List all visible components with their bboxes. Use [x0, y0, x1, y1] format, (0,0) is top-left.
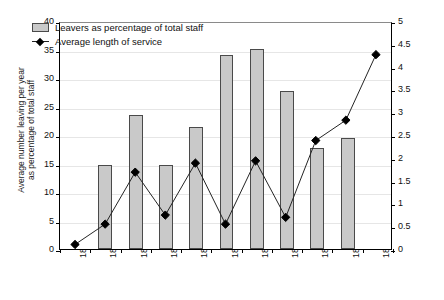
y-tick-right	[391, 46, 395, 47]
y-tick-right	[391, 228, 395, 229]
y-tick-label-right: 5	[398, 16, 428, 26]
line-marker-diamond	[282, 213, 290, 221]
plot-area	[59, 22, 392, 250]
x-tick	[60, 249, 61, 253]
y-tick-right	[391, 23, 395, 24]
y-tick-right	[391, 114, 395, 115]
legend-item-line: Average length of service	[32, 35, 203, 48]
line-marker-diamond	[372, 50, 380, 58]
y-tick-label: 5	[24, 216, 54, 226]
x-tick	[272, 249, 273, 253]
y-tick-label-right: 4.5	[398, 39, 428, 49]
line-marker-diamond	[191, 159, 199, 167]
y-tick-label-right: 2.5	[398, 130, 428, 140]
legend-item-bars: Leavers as percentage of total staff	[32, 21, 203, 34]
y-tick-label: 0	[24, 244, 54, 254]
x-tick	[181, 249, 182, 253]
x-tick	[211, 249, 212, 253]
y-tick-right	[391, 69, 395, 70]
line-diamond-icon	[32, 37, 49, 46]
line-marker-diamond	[131, 168, 139, 176]
x-tick	[332, 249, 333, 253]
line-marker-diamond	[161, 211, 169, 219]
line-marker-diamond	[101, 220, 109, 228]
y-tick-right	[391, 137, 395, 138]
y-tick-label-right: 2	[398, 153, 428, 163]
y-tick-label-right: 3.5	[398, 84, 428, 94]
line-path	[75, 55, 376, 245]
line-marker-diamond	[71, 240, 79, 248]
line-series	[60, 23, 391, 249]
y-tick-right	[391, 91, 395, 92]
y-tick-label: 15	[24, 159, 54, 169]
y-tick-right	[391, 183, 395, 184]
x-tick	[363, 249, 364, 253]
x-tick	[151, 249, 152, 253]
x-tick	[90, 249, 91, 253]
chart-legend: Leavers as percentage of total staff Ave…	[32, 21, 203, 49]
x-tick	[302, 249, 303, 253]
y-tick-label-right: 0.5	[398, 221, 428, 231]
y-tick-label-right: 4	[398, 62, 428, 72]
x-tick	[393, 249, 394, 253]
x-tick	[121, 249, 122, 253]
line-marker-diamond	[312, 136, 320, 144]
y-tick-label: 30	[24, 73, 54, 83]
chart-container: Average number leaving per year as perce…	[0, 0, 444, 300]
line-marker-diamond	[342, 116, 350, 124]
y-tick-label-right: 1	[398, 198, 428, 208]
legend-label-bars: Leavers as percentage of total staff	[55, 22, 203, 33]
line-marker-diamond	[221, 220, 229, 228]
y-tick-right	[391, 205, 395, 206]
line-marker-diamond	[251, 157, 259, 165]
y-tick-label-right: 1.5	[398, 176, 428, 186]
y-tick-label-right: 3	[398, 107, 428, 117]
y-tick-label-right: 0	[398, 244, 428, 254]
bar-swatch-icon	[32, 23, 49, 32]
x-tick	[242, 249, 243, 253]
legend-label-line: Average length of service	[55, 36, 162, 47]
y-tick-label: 20	[24, 130, 54, 140]
y-tick-right	[391, 160, 395, 161]
y-tick-label: 10	[24, 187, 54, 197]
y-tick-label: 25	[24, 102, 54, 112]
